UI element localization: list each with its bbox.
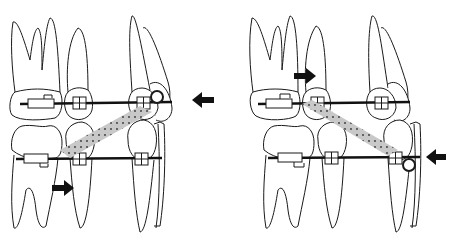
lower-canine xyxy=(384,120,421,232)
lower-premolar xyxy=(318,122,347,228)
bracket-lower-premolar xyxy=(325,152,338,164)
bracket-upper-premolar xyxy=(73,97,86,109)
lower-molar-tube xyxy=(278,153,304,167)
lower-molar-tube xyxy=(24,154,48,167)
arrow-left-icon xyxy=(426,149,446,165)
lower-molar xyxy=(263,125,314,228)
arrow-left-icon xyxy=(192,92,214,108)
lower-canine xyxy=(128,120,165,232)
lower-molar xyxy=(11,125,62,228)
right-panel xyxy=(250,16,446,232)
bracket-upper-canine xyxy=(375,97,388,109)
left-panel xyxy=(10,16,214,232)
bracket-lower-canine xyxy=(135,153,148,165)
diagram-canvas xyxy=(0,0,456,244)
lower-canine-hook xyxy=(403,159,415,171)
arrow-right-icon xyxy=(52,180,74,196)
upper-canine-hook xyxy=(151,91,163,103)
